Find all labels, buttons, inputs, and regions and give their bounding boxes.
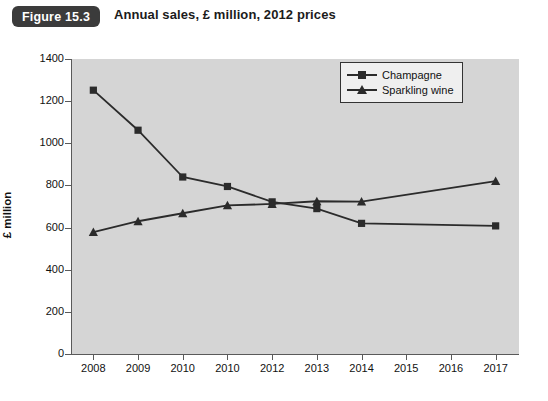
data-point-square [492,222,499,229]
figure-header: Figure 15.3 Annual sales, £ million, 201… [0,0,548,34]
x-axis-tick-mark [272,354,273,360]
legend-label: Champagne [382,69,442,81]
series-line-champagne [93,90,495,226]
chart-container: £ million 0200400600800100012001400 2008… [0,34,548,401]
data-point-square [313,205,320,212]
x-axis-tick-mark [93,354,94,360]
data-point-square [179,173,186,180]
x-axis-tick-mark [227,354,228,360]
square-marker-icon [347,69,377,81]
chart-plot [71,59,518,354]
data-point-square [134,127,141,134]
triangle-marker-icon [347,84,377,96]
figure-panel: Figure 15.3 Annual sales, £ million, 201… [0,0,548,401]
x-axis-tick-label: 2017 [466,362,526,374]
x-axis-tick-mark [138,354,139,360]
x-axis-tick-marks [71,354,518,362]
data-point-square [224,183,231,190]
x-axis-tick-mark [406,354,407,360]
figure-title: Annual sales, £ million, 2012 prices [114,7,336,22]
figure-number-badge: Figure 15.3 [12,6,100,27]
y-axis-tick-marks [0,59,71,354]
data-point-square [358,220,365,227]
legend-label: Sparkling wine [382,84,454,96]
x-axis-tick-mark [183,354,184,360]
x-axis-tick-mark [451,354,452,360]
data-point-square [90,87,97,94]
x-axis-tick-mark [496,354,497,360]
chart-legend: Champagne Sparkling wine [340,62,463,103]
x-axis-tick-mark [362,354,363,360]
x-axis-tick-labels: 2008200920102010201220132014201520162017 [71,362,518,378]
x-axis-tick-mark [317,354,318,360]
legend-item-champagne[interactable]: Champagne [347,67,454,82]
legend-item-sparkling-wine[interactable]: Sparkling wine [347,82,454,97]
